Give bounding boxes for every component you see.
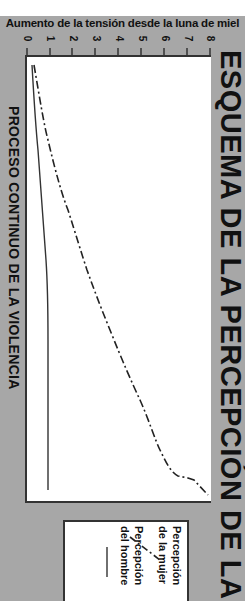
female-perception-line xyxy=(34,65,208,495)
axis-ticks xyxy=(27,48,210,56)
chart-subtitle: PROCESO CONTINUO DE LA VIOLENCIA xyxy=(6,106,22,390)
legend-swatches xyxy=(65,522,191,601)
legend-female-swatch xyxy=(130,537,160,560)
legend: Percepción de la mujer Percepción del ho… xyxy=(63,520,189,601)
chart-title: ESQUEMA DE LA PERCEPCIÓN DE LA VIOLENCIA xyxy=(214,50,245,601)
chart-lines xyxy=(0,0,245,601)
